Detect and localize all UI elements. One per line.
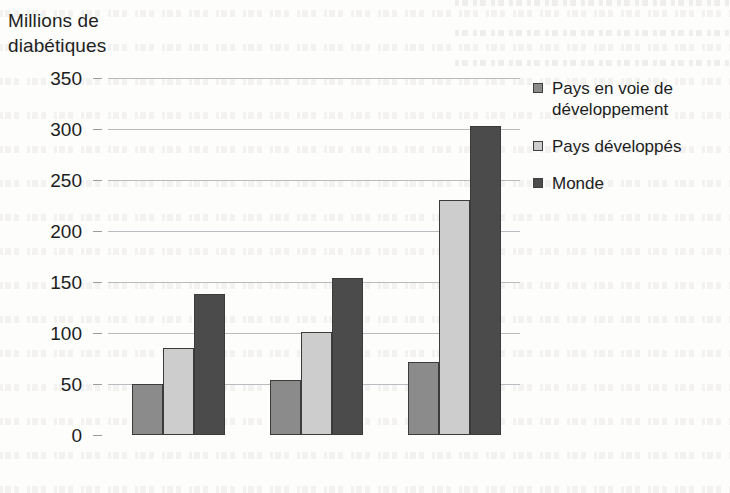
bar bbox=[332, 278, 363, 435]
y-axis-title: Millions de diabétiques bbox=[8, 8, 106, 58]
bar bbox=[132, 384, 163, 435]
legend-swatch-icon bbox=[533, 141, 543, 151]
y-axis-tick-mark bbox=[93, 384, 102, 385]
legend-label: Pays en voie de développement bbox=[552, 78, 725, 120]
y-axis-tick-label: 50 bbox=[0, 375, 82, 394]
bar bbox=[194, 294, 225, 435]
legend-swatch-icon bbox=[533, 178, 543, 188]
gridline bbox=[108, 78, 520, 79]
bar bbox=[439, 200, 470, 435]
legend-label: Monde bbox=[552, 173, 604, 194]
plot-area: 350300250200150100500 199520002025 bbox=[108, 78, 520, 435]
y-axis-tick-mark bbox=[93, 78, 102, 79]
y-axis-tick-mark bbox=[93, 282, 102, 283]
legend-item: Pays développés bbox=[533, 136, 725, 157]
legend-item: Monde bbox=[533, 173, 725, 194]
y-axis-tick-label: 150 bbox=[0, 273, 82, 292]
gridline bbox=[108, 180, 520, 181]
bar bbox=[470, 126, 501, 435]
bar bbox=[163, 348, 194, 435]
bar bbox=[408, 362, 439, 435]
bar bbox=[301, 332, 332, 435]
legend-swatch-icon bbox=[533, 83, 543, 93]
y-axis-tick-mark bbox=[93, 129, 102, 130]
y-axis-tick-label: 200 bbox=[0, 222, 82, 241]
y-axis-tick-label: 300 bbox=[0, 120, 82, 139]
gridline bbox=[108, 129, 520, 130]
y-axis-tick-mark bbox=[93, 180, 102, 181]
legend: Pays en voie de développementPays dévelo… bbox=[533, 78, 725, 210]
legend-label: Pays développés bbox=[552, 136, 681, 157]
bar bbox=[270, 380, 301, 435]
y-axis-tick-label: 350 bbox=[0, 69, 82, 88]
y-axis-tick-label: 250 bbox=[0, 171, 82, 190]
y-axis-tick-mark bbox=[93, 231, 102, 232]
legend-item: Pays en voie de développement bbox=[533, 78, 725, 120]
bar-chart: Millions de diabétiques 3503002502001501… bbox=[0, 0, 730, 493]
y-axis-tick-label: 100 bbox=[0, 324, 82, 343]
y-axis-tick-mark bbox=[93, 333, 102, 334]
y-axis-tick-label: 0 bbox=[0, 426, 82, 445]
y-axis-tick-mark bbox=[93, 435, 102, 436]
